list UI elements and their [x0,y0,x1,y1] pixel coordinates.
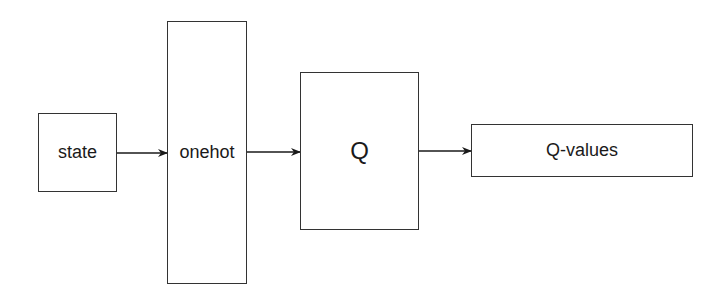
node-qvalues: Q-values [471,124,693,177]
node-q-label: Q [350,137,369,165]
node-onehot: onehot [167,21,247,284]
node-qvalues-label: Q-values [546,140,618,161]
node-onehot-label: onehot [179,142,234,163]
node-q: Q [300,72,419,230]
node-state: state [38,113,117,192]
node-state-label: state [58,142,97,163]
